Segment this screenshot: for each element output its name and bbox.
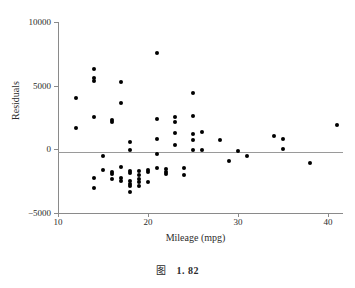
data-point: [146, 180, 150, 184]
figure-caption: 图1. 82: [0, 262, 355, 277]
data-point: [110, 172, 114, 176]
x-axis-title-text: Mileage (mpg): [166, 232, 226, 243]
data-point: [191, 148, 195, 152]
caption-symbol: 图: [156, 265, 167, 276]
data-point: [200, 130, 204, 134]
data-point: [173, 131, 177, 135]
data-point: [173, 143, 177, 147]
data-point: [245, 154, 249, 158]
data-point: [119, 165, 123, 169]
y-tick-mark: [54, 22, 59, 23]
data-point: [128, 171, 132, 175]
data-point: [281, 137, 285, 141]
y-tick-label: 5000: [33, 82, 51, 91]
figure-container: −50000500010000 10203040 Residuals Milea…: [0, 0, 355, 288]
data-point: [92, 176, 96, 180]
data-point: [119, 101, 123, 105]
data-point: [308, 161, 312, 165]
data-point: [155, 51, 159, 55]
y-tick-label: −5000: [28, 209, 51, 218]
data-point: [191, 114, 195, 118]
data-point: [74, 126, 78, 130]
y-tick-label: 10000: [29, 18, 52, 27]
data-point: [146, 170, 150, 174]
data-point: [272, 134, 276, 138]
data-point: [191, 132, 195, 136]
x-axis-title: Mileage (mpg): [0, 232, 355, 243]
y-tick-label: 0: [47, 145, 52, 154]
data-point: [164, 172, 168, 176]
y-axis-title: Residuals: [10, 65, 21, 137]
data-point: [101, 154, 105, 158]
data-point: [200, 148, 204, 152]
x-tick-label: 10: [38, 218, 78, 227]
data-point: [92, 186, 96, 190]
data-point: [128, 184, 132, 188]
data-point: [128, 140, 132, 144]
caption-number: 1. 82: [177, 265, 200, 276]
data-point: [281, 147, 285, 151]
data-point: [110, 120, 114, 124]
data-point: [92, 67, 96, 71]
x-tick-label: 20: [128, 218, 168, 227]
data-point: [155, 137, 159, 141]
data-point: [119, 179, 123, 183]
data-point: [218, 138, 222, 142]
data-point: [173, 115, 177, 119]
y-tick-mark: [54, 86, 59, 87]
data-point: [119, 80, 123, 84]
data-point: [128, 148, 132, 152]
data-point: [155, 117, 159, 121]
data-point: [173, 120, 177, 124]
x-tick-label: 40: [308, 218, 348, 227]
x-axis-line: [58, 213, 343, 214]
data-point: [92, 115, 96, 119]
scatter-plot: −50000500010000 10203040 Residuals Milea…: [0, 0, 355, 240]
y-tick-mark: [54, 149, 59, 150]
zero-reference-line: [58, 152, 343, 153]
data-point: [101, 168, 105, 172]
data-point: [182, 173, 186, 177]
data-point: [110, 177, 114, 181]
y-axis-line: [58, 22, 59, 214]
data-point: [155, 152, 159, 156]
data-point: [155, 166, 159, 170]
data-point: [128, 190, 132, 194]
data-point: [191, 138, 195, 142]
x-tick-label: 30: [218, 218, 258, 227]
data-point: [335, 123, 339, 127]
data-point: [74, 96, 78, 100]
data-point: [137, 184, 141, 188]
data-point: [227, 159, 231, 163]
data-point: [92, 79, 96, 83]
data-point: [191, 91, 195, 95]
data-point: [182, 166, 186, 170]
data-point: [137, 173, 141, 177]
